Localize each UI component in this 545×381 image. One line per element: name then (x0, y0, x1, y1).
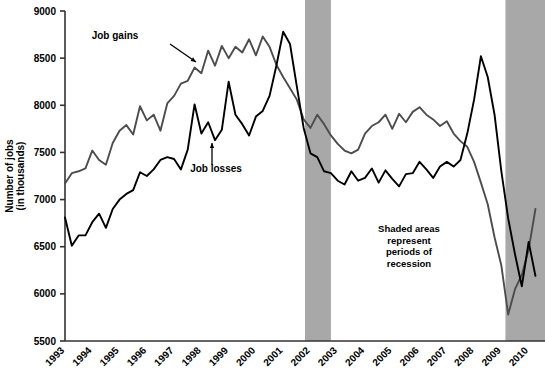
annotation-job-gains: Job gains (92, 30, 139, 41)
chart-canvas: 9000850080007500700065006000550019931994… (0, 0, 545, 381)
y-tick-label: 6000 (34, 288, 57, 299)
y-axis-title: Number of jobs(in thousands) (4, 139, 27, 213)
y-tick-label: 8000 (34, 100, 57, 111)
recession-note: Shaded areasrepresentperiods ofrecession (378, 223, 440, 269)
y-tick-label: 8500 (34, 53, 57, 64)
y-tick-label: 7000 (34, 194, 57, 205)
y-tick-label: 5500 (34, 336, 57, 347)
recession-band-0 (305, 0, 331, 341)
recession-band-1 (505, 0, 545, 341)
y-tick-label: 9000 (34, 6, 57, 17)
annotation-job-losses: Job losses (190, 163, 242, 174)
y-tick-label: 7500 (34, 147, 57, 158)
jobs-chart: 9000850080007500700065006000550019931994… (0, 0, 545, 381)
y-tick-label: 6500 (34, 241, 57, 252)
